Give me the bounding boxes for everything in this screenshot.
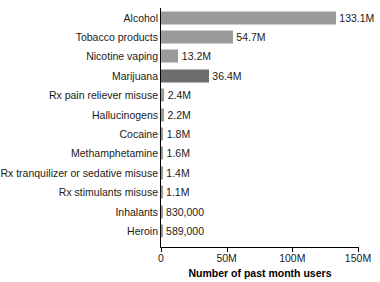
x-axis-line — [161, 247, 359, 248]
value-label: 1.1M — [166, 187, 189, 198]
bar — [161, 225, 163, 238]
bar-chart: Alcohol133.1MTobacco products54.7MNicoti… — [0, 0, 380, 282]
bar-row: Alcohol133.1M — [0, 8, 380, 27]
bar-row: Hallucinogens2.2M — [0, 105, 380, 124]
bar — [161, 128, 163, 141]
bar — [161, 50, 178, 63]
bar-row: Heroin589,000 — [0, 221, 380, 240]
value-label: 1.8M — [167, 129, 190, 140]
category-label: Inhalants — [115, 206, 158, 217]
value-label: 1.4M — [166, 167, 189, 178]
plot-area: Alcohol133.1MTobacco products54.7MNicoti… — [0, 0, 380, 282]
value-label: 589,000 — [166, 226, 204, 237]
category-label: Rx tranquilizer or sedative misuse — [0, 167, 158, 178]
bar-row: Methamphetamine1.6M — [0, 144, 380, 163]
category-label: Heroin — [127, 226, 158, 237]
bar — [161, 31, 233, 44]
bar — [161, 89, 164, 102]
category-label: Tobacco products — [76, 32, 158, 43]
bar — [161, 11, 336, 24]
category-label: Marijuana — [112, 70, 158, 81]
category-label: Alcohol — [124, 12, 158, 23]
category-label: Cocaine — [119, 129, 158, 140]
bar-row: Cocaine1.8M — [0, 124, 380, 143]
value-label: 2.2M — [167, 109, 190, 120]
value-label: 54.7M — [236, 32, 265, 43]
bar — [161, 205, 163, 218]
category-label: Methamphetamine — [71, 148, 158, 159]
x-axis-tick-label: 100M — [279, 253, 305, 264]
bar — [161, 69, 209, 82]
category-label: Nicotine vaping — [86, 51, 158, 62]
bar-row: Rx pain reliever misuse2.4M — [0, 86, 380, 105]
bar — [161, 108, 164, 121]
bar — [161, 147, 163, 160]
category-label: Rx pain reliever misuse — [49, 90, 158, 101]
x-axis-tick-label: 150M — [345, 253, 371, 264]
category-label: Rx stimulants misuse — [59, 187, 158, 198]
value-label: 1.6M — [167, 148, 190, 159]
category-label: Hallucinogens — [92, 109, 158, 120]
bar-row: Tobacco products54.7M — [0, 27, 380, 46]
value-label: 133.1M — [339, 12, 374, 23]
x-axis-tick-label: 50M — [216, 253, 236, 264]
x-axis-tick-label: 0 — [158, 253, 164, 264]
bar-row: Rx tranquilizer or sedative misuse1.4M — [0, 163, 380, 182]
bar-row: Marijuana36.4M — [0, 66, 380, 85]
y-axis-line — [160, 8, 161, 248]
x-axis-title: Number of past month users — [161, 267, 359, 279]
bar-row: Inhalants830,000 — [0, 202, 380, 221]
value-label: 36.4M — [212, 70, 241, 81]
value-label: 2.4M — [168, 90, 191, 101]
value-label: 830,000 — [166, 206, 204, 217]
bar — [161, 166, 163, 179]
bar — [161, 186, 163, 199]
value-label: 13.2M — [182, 51, 211, 62]
bar-row: Nicotine vaping13.2M — [0, 47, 380, 66]
bar-row: Rx stimulants misuse1.1M — [0, 183, 380, 202]
